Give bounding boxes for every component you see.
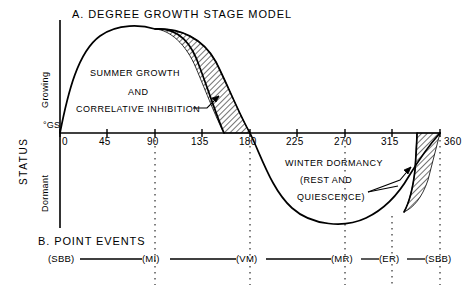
point-event-mr: (MR) bbox=[331, 253, 353, 264]
y-axis-title: STATUS bbox=[18, 137, 29, 185]
y-axis-lower-label: Dormant bbox=[40, 175, 50, 212]
y-axis-upper-label: Growing bbox=[40, 72, 50, 108]
panel-a-title: A. DEGREE GROWTH STAGE MODEL bbox=[72, 8, 292, 20]
winter-dormancy-label-line1: WINTER DORMANCY bbox=[285, 158, 383, 168]
x-tick-label-135: 135 bbox=[191, 136, 209, 147]
point-event-sbb-start: (SBB) bbox=[48, 253, 74, 264]
x-tick-label-315: 315 bbox=[381, 136, 399, 147]
point-event-er: (ER) bbox=[379, 253, 399, 264]
x-tick-label-90: 90 bbox=[147, 136, 159, 147]
x-tick-label-360: 360 bbox=[444, 136, 462, 147]
summer-growth-label-line1: SUMMER GROWTH bbox=[90, 68, 180, 78]
x-tick-label-225: 225 bbox=[286, 136, 304, 147]
x-tick-label-270: 270 bbox=[334, 136, 352, 147]
x-tick-label-180: 180 bbox=[239, 136, 257, 147]
winter-dormancy-label-line2: (REST AND bbox=[300, 175, 352, 185]
degree-growth-stage-figure: A. DEGREE GROWTH STAGE MODEL STATUS Grow… bbox=[0, 0, 475, 290]
point-event-mi: (MI) bbox=[142, 253, 160, 264]
summer-growth-label-line3: CORRELATIVE INHIBITION bbox=[76, 104, 200, 114]
point-event-vm: (VM) bbox=[236, 253, 257, 264]
winter-dormancy-label-line3: QUIESCENCE) bbox=[297, 192, 365, 202]
x-tick-label-45: 45 bbox=[99, 136, 111, 147]
point-event-sbb-end: (SBB) bbox=[425, 253, 451, 264]
panel-b-title: B. POINT EVENTS bbox=[38, 235, 145, 247]
origin-gs-label: °GS bbox=[43, 120, 60, 130]
x-tick-label-0: 0 bbox=[62, 136, 68, 147]
winter-annotation-arrow bbox=[368, 167, 411, 192]
summer-growth-label-line2: AND bbox=[128, 87, 149, 97]
